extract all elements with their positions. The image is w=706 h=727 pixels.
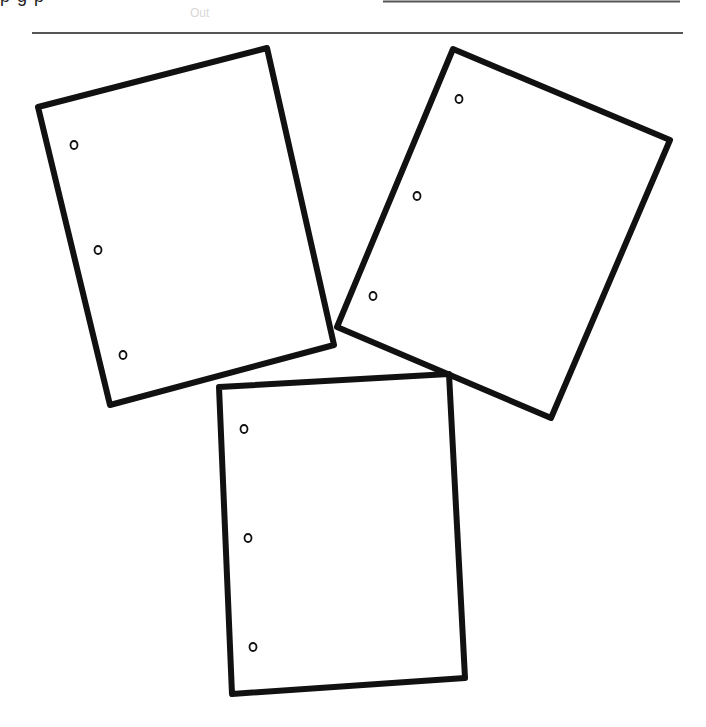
paper-right	[337, 49, 670, 418]
paper-outline	[38, 48, 334, 405]
paper-outline	[337, 49, 670, 418]
paper-left	[38, 48, 334, 405]
papers-figure	[0, 0, 706, 727]
paper-bottom	[219, 374, 465, 694]
